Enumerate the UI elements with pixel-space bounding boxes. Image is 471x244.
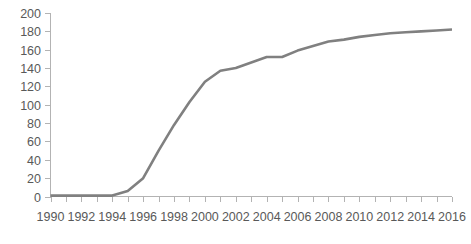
- x-tick-label: 2014: [407, 210, 435, 224]
- x-tick-label: 2006: [284, 210, 312, 224]
- x-tick-marks: [52, 197, 453, 203]
- x-tick-label: 2010: [345, 210, 373, 224]
- data-series-group: [51, 30, 453, 196]
- y-axis-group: 020406080100120140160180200: [20, 7, 50, 205]
- x-tick-label: 2012: [376, 210, 404, 224]
- series-line: [51, 30, 453, 196]
- y-tick-label: 100: [20, 99, 41, 113]
- x-tick-label: 1996: [129, 210, 157, 224]
- chart-canvas: 020406080100120140160180200 199019921994…: [0, 0, 471, 244]
- y-tick-labels: 020406080100120140160180200: [20, 7, 41, 205]
- x-tick-label: 1994: [98, 210, 126, 224]
- y-tick-marks: [45, 14, 51, 198]
- x-tick-label: 1992: [67, 210, 95, 224]
- y-tick-label: 40: [27, 154, 41, 168]
- x-tick-label: 2008: [315, 210, 343, 224]
- y-tick-label: 80: [27, 117, 41, 131]
- x-tick-label: 2004: [253, 210, 281, 224]
- y-tick-label: 20: [27, 172, 41, 186]
- line-chart: 020406080100120140160180200 199019921994…: [0, 0, 471, 244]
- x-tick-label: 2016: [438, 210, 466, 224]
- y-tick-label: 180: [20, 25, 41, 39]
- y-tick-label: 200: [20, 7, 41, 21]
- y-tick-label: 160: [20, 44, 41, 58]
- x-axis-group: 1990199219941996199820002002200420062008…: [37, 197, 466, 225]
- y-tick-label: 60: [27, 135, 41, 149]
- y-tick-label: 120: [20, 80, 41, 94]
- y-tick-label: 140: [20, 62, 41, 76]
- x-tick-label: 1998: [160, 210, 188, 224]
- x-tick-label: 2000: [191, 210, 219, 224]
- x-tick-label: 2002: [222, 210, 250, 224]
- x-tick-label: 1990: [37, 210, 65, 224]
- y-tick-label: 0: [34, 191, 41, 205]
- x-tick-labels: 1990199219941996199820002002200420062008…: [37, 210, 466, 224]
